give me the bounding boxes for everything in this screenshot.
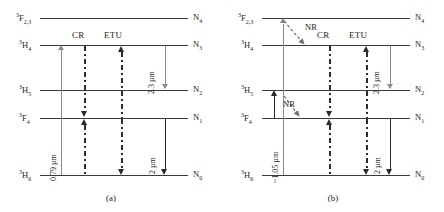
emission-2-label: 2 µm bbox=[373, 157, 382, 174]
cr-down-line bbox=[329, 46, 331, 112]
emission-23-line bbox=[390, 46, 391, 85]
etu-up-arrowhead bbox=[118, 46, 124, 52]
etu-down-line bbox=[121, 119, 123, 169]
etu-label: ETU bbox=[104, 30, 122, 40]
population-label-n0: N0 bbox=[193, 170, 202, 181]
pump-arrow-line bbox=[61, 50, 62, 175]
population-label-n1: N1 bbox=[193, 113, 202, 124]
population-index: 2 bbox=[199, 90, 202, 96]
level-label-n2: 3H5 bbox=[19, 84, 31, 97]
emission-2-label: 2 µm bbox=[148, 157, 157, 174]
cr-up-arrowhead bbox=[326, 119, 332, 125]
emission-2-arrowhead bbox=[161, 169, 167, 175]
panel-a: 3F2,3 3H4 3H5 3F4 3H6 N4 N3 N2 N1 N0 0.7… bbox=[0, 0, 222, 212]
emission-23-label: 2.3 µm bbox=[372, 71, 381, 94]
cr-up-arrowhead bbox=[81, 119, 87, 125]
cr-label: CR bbox=[72, 30, 85, 40]
etu-up-line bbox=[121, 52, 123, 118]
cr-down-line bbox=[84, 46, 86, 112]
population-index: 1 bbox=[199, 118, 202, 124]
term-subscript: 5 bbox=[28, 91, 31, 97]
etu-down-line bbox=[366, 119, 368, 169]
level-label-n3: 3H4 bbox=[19, 39, 31, 52]
population-index: 4 bbox=[199, 18, 202, 24]
population-label-n4: N4 bbox=[193, 13, 202, 24]
nr-feed-arrowhead bbox=[271, 90, 277, 96]
cr-down-arrowhead bbox=[326, 111, 332, 117]
nr-lower-label: NR bbox=[283, 99, 295, 109]
term-subscript: 4 bbox=[28, 46, 31, 52]
emission-23-arrowhead bbox=[387, 84, 393, 89]
level-label-n0: 3H6 bbox=[19, 169, 31, 182]
emission-23-label: 2.3 µm bbox=[147, 71, 156, 94]
emission-2-arrowhead bbox=[386, 169, 392, 175]
population-index: 3 bbox=[199, 45, 202, 51]
energy-level-n4 bbox=[40, 18, 188, 19]
etu-label: ETU bbox=[349, 30, 367, 40]
etu-up-arrowhead bbox=[363, 46, 369, 52]
emission-2-line bbox=[165, 119, 166, 170]
term-subscript: 4 bbox=[27, 119, 30, 125]
cr-up-line bbox=[84, 125, 86, 175]
cr-down-arrowhead bbox=[81, 111, 87, 117]
pump-arrow-head bbox=[58, 45, 64, 50]
nr-lower-arrow bbox=[222, 0, 444, 212]
population-label-n2: N2 bbox=[193, 85, 202, 96]
nr-feed-line bbox=[274, 96, 275, 118]
population-index: 0 bbox=[199, 175, 202, 181]
emission-23-line bbox=[165, 46, 166, 85]
energy-level-n0 bbox=[40, 175, 188, 176]
etu-down-arrowhead bbox=[363, 169, 369, 175]
pump-wavelength-label: 0.79 µm bbox=[49, 154, 58, 181]
cr-up-line bbox=[329, 125, 331, 175]
etu-down-arrowhead bbox=[118, 169, 124, 175]
panel-b-caption: (b) bbox=[313, 193, 353, 203]
cr-label: CR bbox=[317, 30, 330, 40]
level-label-n1: 3F4 bbox=[19, 112, 30, 125]
panel-a-caption: (a) bbox=[91, 193, 131, 203]
panel-b: 3F2,3 3H4 3H5 3F4 3H6 N4 N3 N2 N1 N0 ~1.… bbox=[222, 0, 444, 212]
energy-level-n2 bbox=[40, 90, 188, 91]
term-subscript: 2,3 bbox=[24, 19, 32, 25]
population-label-n3: N3 bbox=[193, 40, 202, 51]
term-subscript: 6 bbox=[28, 176, 31, 182]
emission-23-arrowhead bbox=[162, 84, 168, 89]
level-label-n4: 3F2,3 bbox=[16, 12, 31, 25]
emission-2-line bbox=[390, 119, 391, 170]
etu-up-line bbox=[366, 52, 368, 118]
